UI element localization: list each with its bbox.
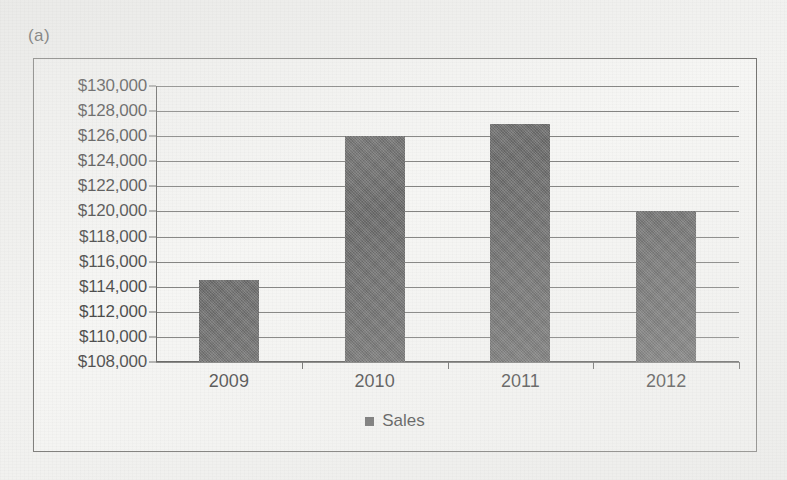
chart-frame: $130,000$128,000$126,000$124,000$122,000… bbox=[33, 58, 757, 452]
y-axis-tick-label: $114,000 bbox=[79, 277, 147, 297]
y-axis-tick-mark bbox=[149, 336, 156, 337]
y-axis-tick-label: $128,000 bbox=[78, 101, 147, 121]
y-axis-tick-mark bbox=[149, 362, 156, 363]
y-axis-tick-label: $108,000 bbox=[78, 352, 147, 372]
y-axis-tick-label: $122,000 bbox=[78, 176, 147, 196]
y-axis-tick-mark bbox=[149, 211, 156, 212]
gridline bbox=[156, 86, 739, 87]
bar-2010 bbox=[345, 136, 405, 362]
figure-label: (a) bbox=[28, 26, 50, 46]
x-axis-tick-label: 2012 bbox=[646, 371, 686, 392]
chart-legend: Sales bbox=[34, 411, 756, 431]
y-axis-tick-mark bbox=[149, 236, 156, 237]
square-marker-icon bbox=[365, 417, 374, 426]
y-axis-tick-label: $120,000 bbox=[78, 201, 147, 221]
y-axis-tick-label: $130,000 bbox=[78, 76, 147, 96]
y-axis-line bbox=[156, 86, 157, 362]
gridline bbox=[156, 161, 739, 162]
y-axis-tick-mark bbox=[149, 111, 156, 112]
y-axis-tick-label: $118,000 bbox=[79, 227, 147, 247]
x-axis-tick-label: 2011 bbox=[501, 371, 540, 392]
legend-label-sales: Sales bbox=[382, 411, 425, 431]
y-axis-tick-mark bbox=[149, 136, 156, 137]
gridline bbox=[156, 111, 739, 112]
x-axis-tick-mark bbox=[739, 362, 740, 369]
y-axis-tick-label: $124,000 bbox=[78, 151, 147, 171]
y-axis-tick-mark bbox=[149, 161, 156, 162]
y-axis-tick-mark bbox=[149, 286, 156, 287]
x-axis-tick-label: 2010 bbox=[355, 371, 395, 392]
plot-area: $130,000$128,000$126,000$124,000$122,000… bbox=[156, 86, 739, 362]
gridline bbox=[156, 186, 739, 187]
y-axis-tick-label: $116,000 bbox=[79, 252, 147, 272]
y-axis-tick-mark bbox=[149, 311, 156, 312]
y-axis-tick-mark bbox=[149, 86, 156, 87]
gridline bbox=[156, 136, 739, 137]
bar-2011 bbox=[490, 124, 550, 362]
y-axis-tick-mark bbox=[149, 186, 156, 187]
y-axis-tick-mark bbox=[149, 261, 156, 262]
y-axis-tick-label: $110,000 bbox=[79, 327, 147, 347]
bar-2009 bbox=[199, 280, 259, 362]
y-axis-tick-label: $112,000 bbox=[79, 302, 147, 322]
x-axis-tick-mark bbox=[448, 362, 449, 369]
bar-2012 bbox=[636, 211, 696, 362]
x-axis-tick-label: 2009 bbox=[209, 371, 249, 392]
x-axis-tick-mark bbox=[302, 362, 303, 369]
x-axis-tick-mark bbox=[593, 362, 594, 369]
y-axis-tick-label: $126,000 bbox=[78, 126, 147, 146]
